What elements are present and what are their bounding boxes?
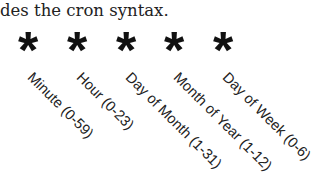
cron-field-day-of-week-symbol: * (208, 24, 238, 76)
intro-text: des the cron syntax. (0, 1, 169, 20)
cron-field-hour-symbol: * (62, 24, 92, 76)
cron-field-month-symbol: * (159, 24, 189, 76)
cron-field-day-of-month-symbol: * (111, 24, 141, 76)
cron-field-day-of-week-label: Day of Week (0-6) (220, 69, 314, 163)
cron-field-minute-symbol: * (13, 24, 43, 76)
